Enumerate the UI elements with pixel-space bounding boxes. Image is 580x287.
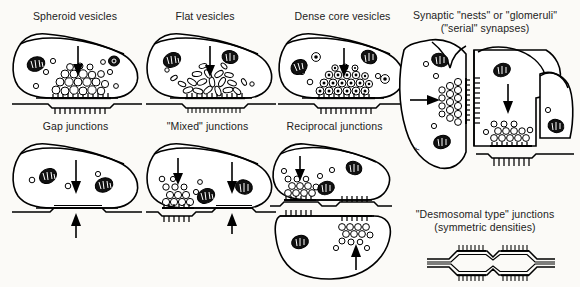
mitochondrion: [109, 56, 120, 66]
glomeruli-caption-line2: ("serial" synapses): [392, 22, 578, 35]
panel-mixed-junctions: [140, 134, 280, 219]
gap-junctions-drawing: [6, 134, 146, 219]
mixed-junctions-drawing: [140, 134, 280, 219]
panel-reciprocal-junctions: [266, 134, 396, 284]
panel-desmosomal-junctions: [425, 243, 557, 283]
postsynaptic-density-lower-left: [286, 210, 311, 216]
desmosomal-drawing: [425, 243, 557, 283]
desmosomal-caption-line2: (symmetric densities): [392, 221, 578, 234]
dense-core-vesicles-drawing: [272, 24, 412, 114]
spheroid-vesicles-drawing: [6, 24, 146, 114]
flat-vesicles-drawing: [140, 24, 280, 114]
panel-flat-vesicles: [140, 24, 280, 114]
panel-dense-core-vesicles: [272, 24, 412, 114]
panel-caption-dense-core-vesicles: Dense core vesicles: [280, 10, 405, 22]
panel-glomeruli: ⌇: [396, 34, 576, 194]
postsynaptic-density: [55, 108, 105, 114]
glomeruli-caption: Synaptic "nests" or "glomeruli" ("serial…: [392, 9, 578, 34]
glomeruli-caption-line1: Synaptic "nests" or "glomeruli": [392, 9, 578, 22]
panel-caption-gap-junctions: Gap junctions: [18, 120, 133, 132]
synapse-types-figure: Spheroid vesicles: [0, 0, 580, 287]
glomeruli-drawing: ⌇: [396, 34, 576, 194]
panel-caption-mixed-junctions: "Mixed" junctions: [145, 120, 270, 132]
reciprocal-junctions-drawing: [266, 134, 396, 284]
postsynaptic-density: [164, 216, 189, 222]
panel-caption-flat-vesicles: Flat vesicles: [150, 10, 260, 22]
postsynaptic-density-bottom: [494, 158, 529, 166]
postsynaptic-density: [321, 108, 371, 114]
panel-gap-junctions: [6, 134, 146, 219]
mixed-junction-membrane: [146, 208, 276, 216]
desmosomal-caption: "Desmosomal type" junctions (symmetric d…: [392, 208, 578, 233]
panel-caption-spheroid-vesicles: Spheroid vesicles: [10, 10, 140, 22]
panel-spheroid-vesicles: [6, 24, 146, 114]
desmosomal-caption-line1: "Desmosomal type" junctions: [392, 208, 578, 221]
panel-caption-reciprocal-junctions: Reciprocal junctions: [272, 120, 397, 132]
transmission-arrow-up-gap: [227, 213, 237, 234]
gap-junction-membrane: [12, 208, 142, 212]
transmission-arrow-up: [71, 213, 81, 238]
